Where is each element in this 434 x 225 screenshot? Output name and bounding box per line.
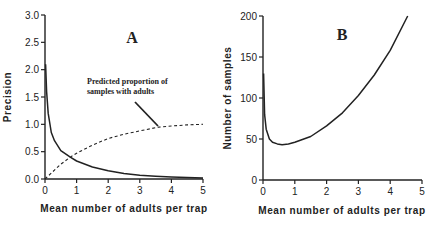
chart-panel-a: 0123450.00.51.01.52.02.53.0Mean number o… [2,10,208,215]
y-tick-label: 50 [246,134,258,145]
x-tick-label: 5 [419,186,425,197]
annotation-pointer [135,102,158,126]
y-tick-label: 1.0 [25,119,39,130]
y-tick-label: 0 [251,175,257,186]
y-tick-label: 1.5 [25,92,39,103]
x-axis-label: Mean number of adults per trap [40,203,207,214]
y-tick-label: 2.5 [25,37,39,48]
y-tick-label: 0.5 [25,146,39,157]
panel-label: A [126,29,138,46]
y-tick-label: 100 [240,93,257,104]
x-tick-label: 0 [260,186,266,197]
y-tick-label: 0.0 [25,174,39,185]
x-tick-label: 3 [137,185,143,196]
x-tick-label: 1 [74,185,80,196]
panel-label: B [337,26,348,43]
y-axis-label: Precision [2,72,13,122]
x-tick-label: 2 [324,186,330,197]
series-line [45,124,203,179]
x-tick-label: 0 [42,185,48,196]
x-tick-label: 3 [356,186,362,197]
y-tick-label: 150 [240,52,257,63]
y-axis-label: Number of samples [222,46,233,149]
x-axis-label: Mean number of adults per trap [258,205,425,216]
x-tick-label: 5 [200,185,206,196]
x-tick-label: 1 [292,186,298,197]
y-tick-label: 3.0 [25,10,39,21]
figure: 0123450.00.51.01.52.02.53.0Mean number o… [0,0,434,225]
series-line [264,16,408,145]
x-tick-label: 4 [169,185,175,196]
chart-panel-b: 012345050100150200Mean number of adults … [222,11,426,217]
y-tick-label: 2.0 [25,64,39,75]
x-tick-label: 2 [105,185,111,196]
x-tick-label: 4 [387,186,393,197]
y-tick-label: 200 [240,11,257,22]
annotation-text: samples with adults [87,87,154,96]
annotation-text: Predicted proportion of [87,77,168,86]
